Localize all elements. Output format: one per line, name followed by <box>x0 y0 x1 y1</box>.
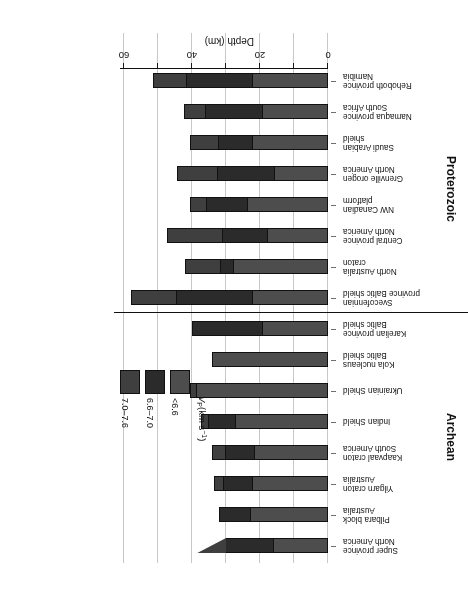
category-label-line1: Indian Shield <box>343 417 390 426</box>
category-tick: – <box>331 511 336 521</box>
category-label: Svecofennianprovince Baltic shield <box>343 289 463 307</box>
category-tick: – <box>331 294 336 304</box>
category-label-line2: North America <box>343 537 395 546</box>
category-label-line1: Central province <box>343 236 403 245</box>
bar-segment <box>219 135 253 150</box>
bar-segment <box>253 135 328 150</box>
category-label-line1: North Australia <box>343 267 397 276</box>
x-axis-tick <box>191 63 192 68</box>
bar <box>212 352 328 367</box>
x-axis-tick <box>327 63 328 68</box>
category-label-line2: Baltic shield <box>343 351 387 360</box>
category-label-line1: Yilgarn craton <box>343 484 393 493</box>
group-label-proterozoic: Proterozoic <box>444 145 458 235</box>
category-label: Rehoboth provinceNamibia <box>343 72 463 90</box>
bar-segment <box>206 104 264 119</box>
category-label: North Australiacraton <box>343 258 463 276</box>
bar-segment <box>212 445 226 460</box>
category-label-line1: Karelian province <box>343 329 406 338</box>
category-label-line2: platform <box>343 196 373 205</box>
bar-segment <box>253 476 328 491</box>
bar-segment <box>197 383 328 398</box>
bar <box>197 538 328 553</box>
gridline <box>123 33 124 563</box>
bar-segment <box>190 197 207 212</box>
category-label: Pilbara blockAustralia <box>343 506 463 524</box>
legend-swatch <box>170 370 190 394</box>
bar-segment <box>207 197 248 212</box>
category-label: Karelian provinceBaltic shield <box>343 320 463 338</box>
bar-segment <box>274 538 328 553</box>
category-label-line1: Rehoboth province <box>343 81 412 90</box>
bar-segment <box>263 104 328 119</box>
bar-segment <box>253 73 328 88</box>
category-tick: – <box>331 232 336 242</box>
category-label: Namaqua provinceSouth Africa <box>343 103 463 121</box>
category-label: Super provinceNorth America <box>343 537 463 555</box>
category-tick: – <box>331 77 336 87</box>
legend-title: VP(km s−1) <box>196 396 208 441</box>
category-label-line1: NW Canadian <box>343 205 394 214</box>
category-label-line2: South America <box>343 444 396 453</box>
bar-segment <box>185 259 221 274</box>
x-axis-tick-label: 20 <box>247 50 273 61</box>
bar-segment <box>224 476 253 491</box>
category-tick: – <box>331 263 336 273</box>
bar-segment <box>226 538 274 553</box>
bar-segment <box>177 290 254 305</box>
x-axis-tick <box>259 63 260 68</box>
bar-segment <box>209 414 236 429</box>
x-axis-tick <box>157 63 158 68</box>
bar <box>177 166 328 181</box>
bar-segment <box>153 73 187 88</box>
bar <box>201 414 328 429</box>
category-label-line2: North America <box>343 165 395 174</box>
category-label-line2: shield <box>343 134 364 143</box>
x-axis-tick-label: 60 <box>111 50 137 61</box>
plot-area: –Super provinceNorth America–Pilbara blo… <box>124 33 328 563</box>
category-label-line2: Australia <box>343 475 375 484</box>
category-label-line2: province Baltic shield <box>343 289 420 298</box>
category-label: Kola nucleausBaltic shield <box>343 351 463 369</box>
category-tick: – <box>331 542 336 552</box>
bar <box>131 290 328 305</box>
category-label-line1: Pilbara block <box>343 515 390 524</box>
group-label-archean: Archean <box>444 393 458 483</box>
category-label-line1: Saudi Arabian <box>343 143 394 152</box>
category-label-line1: Kaapvaal craton <box>343 453 402 462</box>
bar-segment <box>214 476 224 491</box>
category-tick: – <box>331 449 336 459</box>
category-tick: – <box>331 387 336 397</box>
x-axis-tick <box>123 63 124 68</box>
bar-segment <box>221 259 235 274</box>
bar-segment <box>263 321 328 336</box>
bar-segment <box>275 166 328 181</box>
legend: VP(km s−1)<6.66.6–7.07.0–7.6 <box>96 326 206 396</box>
category-tick: – <box>331 480 336 490</box>
bar <box>167 228 328 243</box>
bar <box>185 259 328 274</box>
category-label-line1: Kola nucleaus <box>343 360 394 369</box>
category-label-line2: North America <box>343 227 395 236</box>
x-axis-title: Depth (km) <box>205 36 254 47</box>
category-tick: – <box>331 325 336 335</box>
bar <box>190 135 328 150</box>
category-label-line1: Grenville orogen <box>343 174 403 183</box>
x-axis-tick <box>293 63 294 68</box>
bar-segment <box>236 414 328 429</box>
x-axis-tick-label: 0 <box>315 50 341 61</box>
bar-segment <box>167 228 223 243</box>
category-label-line2: Namibia <box>343 72 373 81</box>
category-label-line2: craton <box>343 258 366 267</box>
category-tick: – <box>331 418 336 428</box>
category-label-line2: Australia <box>343 506 375 515</box>
bar <box>190 383 328 398</box>
x-axis-tick <box>225 63 226 68</box>
category-label-line1: Namaqua province <box>343 112 412 121</box>
category-tick: – <box>331 108 336 118</box>
bar-segment <box>248 197 328 212</box>
bar-segment <box>226 445 255 460</box>
category-tick: – <box>331 201 336 211</box>
category-tick: – <box>331 356 336 366</box>
